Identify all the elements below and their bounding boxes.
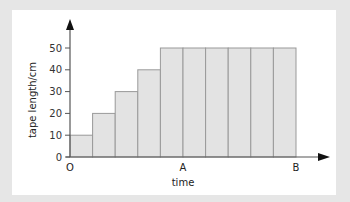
x-marker-label: O [66,162,74,173]
y-axis-label: tape length/cm [27,62,38,138]
bar [183,48,206,157]
bar-chart: 01020304050 OAB time tape length/cm [0,0,350,202]
bar [70,135,93,157]
y-axis-arrow-icon [66,19,74,30]
y-tick-label: 20 [49,108,62,119]
y-tick-label: 30 [49,86,62,97]
x-axis-label: time [172,177,195,188]
bar [93,113,116,157]
bar [251,48,274,157]
y-tick-label: 0 [56,152,62,163]
bar [228,48,251,157]
bar [138,70,161,157]
bars [70,48,296,157]
bar [115,92,138,157]
y-tick-label: 50 [49,43,62,54]
x-axis-arrow-icon [318,153,330,161]
x-marker-label: B [293,162,300,173]
bar [273,48,296,157]
x-markers: OAB [66,162,300,173]
y-tick-label: 40 [49,64,62,75]
bar [206,48,229,157]
bar [160,48,183,157]
y-tick-label: 10 [49,130,62,141]
y-ticks: 01020304050 [49,43,70,163]
x-marker-label: A [180,162,187,173]
